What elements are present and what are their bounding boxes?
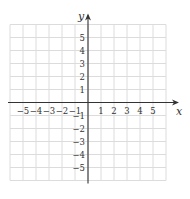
y-tick-label: 4 [80,46,85,56]
x-tick-label: 5 [150,106,155,116]
y-tick-label: −1 [72,111,85,121]
y-tick-label: −5 [72,163,85,173]
coordinate-grid-svg: −5−4−3−2−11234554321−1−2−3−4−5 x y [0,0,190,199]
x-tick-label: 2 [111,106,116,116]
y-tick-label: 5 [80,33,85,43]
y-tick-label: 2 [80,72,85,82]
y-tick-label: 3 [80,59,85,69]
x-tick-label: −3 [43,106,56,116]
x-tick-label: 3 [124,106,129,116]
y-tick-label: −3 [72,137,85,147]
x-tick-label: −4 [30,106,43,116]
y-tick-label: −4 [72,150,85,160]
x-axis-label: x [176,105,183,118]
y-tick-label: −2 [72,124,85,134]
y-axis-label: y [77,10,85,23]
y-tick-label: 1 [80,85,85,95]
x-tick-label: −5 [17,106,30,116]
x-tick-label: 1 [98,106,103,116]
coordinate-plane: −5−4−3−2−11234554321−1−2−3−4−5 x y [0,0,190,199]
x-tick-label: −2 [56,106,69,116]
x-tick-label: 4 [137,106,142,116]
